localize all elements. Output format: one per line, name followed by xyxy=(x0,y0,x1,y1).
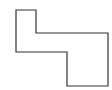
diagram-canvas xyxy=(0,0,112,90)
polygon-outline xyxy=(16,10,108,86)
